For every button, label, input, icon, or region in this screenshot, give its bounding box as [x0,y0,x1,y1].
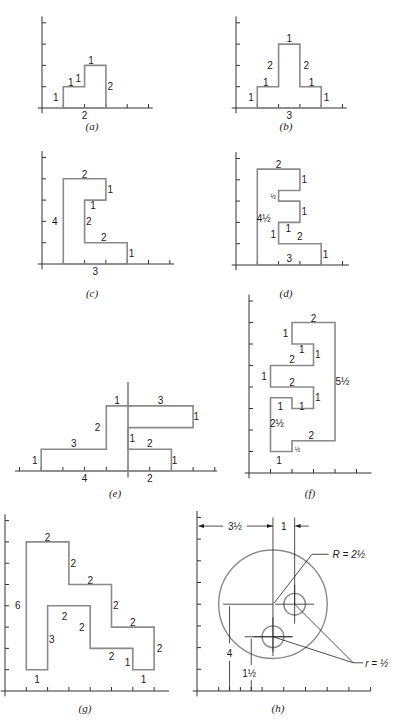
panels: 122111(a)12211113(b)21124213(c)21½14½112… [1,16,389,715]
figure-canvas: 122111(a)12211113(b)21124213(c)21½14½112… [0,0,395,728]
panel-caption: (g) [79,702,92,715]
dimension-label: 2 [309,430,315,441]
shape-outline [63,179,127,264]
panel-e: 13121231142(e) [15,382,217,500]
dimension-label: 2 [109,651,115,662]
panel-g: 22262222322111(g) [1,514,169,715]
panel-b: 12211113(b) [232,16,347,133]
dimension-label: 1 [32,455,38,466]
dimension-label: 1 [114,395,120,406]
dimension-label: 2 [311,313,317,324]
dimension-label: 2 [147,473,153,484]
dimension-label: 2 [70,558,76,569]
dimension-label: 5½ [336,376,351,387]
dimension-label: 3 [92,266,98,277]
dimension-label: 1 [301,174,307,185]
arrowhead [295,524,301,528]
dimension-label: 2 [113,600,119,611]
dimension-label: 1 [34,674,40,685]
dimension-label: 2 [289,354,295,365]
dimension-label: 3 [71,438,77,449]
dimension-label-offset: 3½ [228,521,243,532]
dimension-label: 1 [299,344,305,355]
dimension-label: 1 [68,77,74,88]
panel-caption: (h) [272,702,285,715]
dimension-label: 2 [130,617,136,628]
dimension-label: 2 [86,216,92,227]
dimension-label: 2 [267,60,273,71]
panel-h: 3½1R = 2½r = ½41½(h) [193,511,389,715]
dimension-label: 1 [270,229,276,240]
dimension-label: 1 [299,401,305,412]
dimension-label: 2 [276,159,282,170]
radius-label-small: r = ½ [365,658,389,669]
dimension-label: 6 [15,600,21,611]
dimension-label: 2 [87,575,93,586]
dimension-label: 1 [315,349,321,360]
dimension-label: 2 [157,643,163,654]
dimension-label-spacing: 1 [281,521,287,532]
dimension-label: 1 [125,657,131,668]
dimension-label: 1 [283,328,289,339]
dimension-label-hole-height: 1½ [242,668,257,679]
dimension-label: 1 [276,455,282,466]
dimension-label: 1 [130,433,136,444]
shape-outline [26,542,154,670]
dimension-label: 2 [304,60,310,71]
dimension-label: 2 [297,231,303,242]
dimension-label: 1 [141,674,147,685]
dimension-label: 1 [309,77,315,88]
radius-label-large: R = 2½ [333,549,366,560]
panel-c: 21124213(c) [38,151,174,300]
leader-line [295,604,354,663]
dimension-label: 2 [101,232,107,243]
shape-outline [271,323,336,452]
dimension-label: 2 [95,422,101,433]
dimension-label: 1 [248,92,254,103]
dimension-label: 4½ [257,213,272,224]
dimension-label: 2 [45,532,51,543]
dimension-label: 3 [158,395,164,406]
panel-caption: (e) [109,487,122,500]
dimension-label: 2 [82,169,88,180]
dimension-label: 1 [263,77,269,88]
dimension-label: ½ [271,193,277,200]
dimension-label: 1 [261,371,267,382]
dimension-label: 2 [79,622,85,633]
panel-caption: (c) [86,287,99,300]
dimension-label: ½ [295,446,301,453]
arrowhead [198,524,204,528]
dimension-label: 1 [194,411,200,422]
dimension-label: 1 [277,401,283,412]
dimension-label: 1 [75,73,81,84]
panel-caption: (b) [280,120,293,133]
panel-caption: (f) [305,487,316,500]
shape-outline [41,406,193,471]
dimension-label: 4 [82,473,88,484]
dimension-label: 1 [90,200,96,211]
dimension-label: 1 [324,92,330,103]
dimension-label-height: 4 [227,648,233,659]
panel-d: 21½14½11213(d) [232,152,349,300]
dimension-label: 2½ [270,418,285,429]
dimension-label: 1 [285,223,291,234]
panel-a: 122111(a) [38,16,153,133]
dimension-label: 1 [53,92,59,103]
panel-caption: (d) [280,287,293,300]
dimension-label: 1 [286,33,292,44]
panel-caption: (a) [86,120,99,133]
dimension-label: 1 [88,55,94,66]
dimension-label: 2 [62,611,68,622]
dimension-label: 3 [49,634,55,645]
dimension-label: 2 [289,377,295,388]
dimension-label: 1 [107,184,113,195]
dimension-label: 1 [323,249,329,260]
dimension-label: 2 [107,81,113,92]
dimension-label: 1 [315,392,321,403]
dimension-label: 1 [301,206,307,217]
leader-line [274,554,312,603]
panel-f: 21112125½1112½2½1(f) [245,295,372,500]
dimension-label: 2 [147,438,153,449]
dimension-label: 1 [129,248,135,259]
arrowhead [267,524,273,528]
